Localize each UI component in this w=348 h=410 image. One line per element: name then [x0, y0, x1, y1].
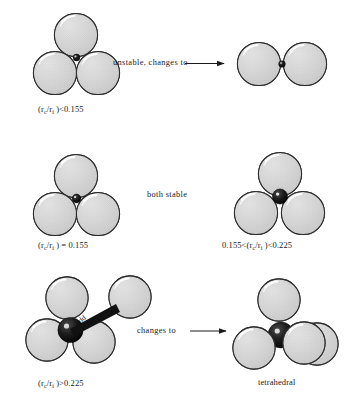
caption-part: /r [255, 240, 260, 250]
cation-highlight [275, 328, 280, 333]
row-1-left-cluster [33, 13, 119, 94]
cation-particle [73, 54, 80, 61]
caption-part: )<0.225 [262, 240, 292, 250]
row2-stability-label: both stable [147, 190, 187, 199]
anion-sphere [54, 154, 97, 197]
caption-sub-c: c [252, 244, 255, 251]
row-3-right-cluster [233, 279, 338, 369]
caption-part: )>0.225 [54, 378, 84, 388]
row2-right-caption: 0.155<(rc/ri )<0.225 [222, 240, 292, 250]
row1-left-caption: (rc/ri )<0.155 [38, 104, 84, 114]
row-2-right-cluster [234, 152, 324, 234]
anion-sphere [234, 191, 277, 234]
row3-transition-label: changes to [137, 326, 176, 335]
caption-part: ) = 0.155 [54, 240, 88, 250]
caption-sub-i: i [52, 244, 54, 251]
anion-sphere [233, 327, 275, 369]
caption-sub-c: c [44, 244, 47, 251]
caption-part: (r [38, 240, 44, 250]
caption-part: (r [38, 378, 44, 388]
row-2-left-cluster [33, 154, 119, 235]
anion-sphere [281, 191, 324, 234]
caption-sub-i: i [52, 382, 54, 389]
cation-highlight [75, 56, 77, 58]
anion-sphere [237, 42, 280, 85]
caption-part: 0.155<(r [222, 240, 252, 250]
row3-right-caption: tetrahedral [258, 377, 295, 387]
cation-highlight [74, 196, 76, 198]
anion-sphere [33, 51, 76, 94]
anion-sphere [283, 322, 325, 364]
anion-sphere [283, 42, 326, 85]
row2-left-caption: (rc/ri ) = 0.155 [38, 240, 88, 250]
caption-sub-c: c [44, 382, 47, 389]
row-3-left-cluster [26, 276, 151, 363]
anion-sphere [258, 279, 300, 321]
anion-sphere [33, 192, 76, 235]
cation-highlight [280, 62, 282, 64]
cation-highlight [64, 323, 69, 328]
caption-sub-c: c [44, 108, 47, 115]
cation-particle [272, 189, 287, 204]
caption-part: )<0.155 [54, 104, 84, 114]
caption-sub-i: i [52, 108, 54, 115]
anion-sphere [54, 13, 97, 56]
caption-part: (r [38, 104, 44, 114]
row-1-right-cluster [237, 42, 326, 85]
row3-left-caption: (rc/ri )>0.225 [38, 378, 84, 388]
cation-highlight [276, 192, 279, 195]
cation-particle [279, 61, 286, 68]
cation-particle [72, 194, 81, 203]
anion-sphere [76, 192, 119, 235]
row1-transition-label: unstable, changes to [113, 58, 188, 67]
